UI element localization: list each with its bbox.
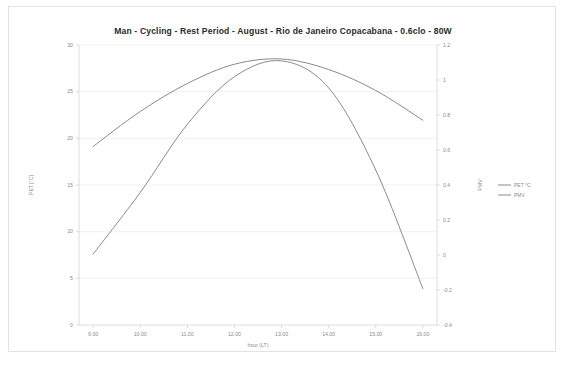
- chart-title: Man - Cycling - Rest Period - August - R…: [114, 26, 452, 36]
- axis-titles: PET [°C]PMVhour (LT): [28, 174, 483, 348]
- xtick-label: 15.00: [369, 331, 382, 337]
- ytick-label-left: 20: [67, 135, 73, 141]
- xtick-label: 9.00: [88, 331, 98, 337]
- ytick-label-right: 0.4: [443, 182, 450, 188]
- ytick-label-right: 0: [443, 252, 446, 258]
- ytick-label-right: 0.8: [443, 112, 450, 118]
- legend-label: PMV: [514, 192, 526, 198]
- ytick-label-right: -0.4: [443, 322, 452, 328]
- ytick-label-left: 15: [67, 182, 73, 188]
- xtick-label: 11.00: [181, 331, 194, 337]
- axis-title-x: hour (LT): [248, 342, 269, 348]
- ytick-label-right: 0.2: [443, 217, 450, 223]
- gridlines: [79, 45, 437, 278]
- figure-canvas: Man - Cycling - Rest Period - August - R…: [0, 0, 567, 378]
- ytick-label-right: 0.6: [443, 147, 450, 153]
- series-line-pet-c: [93, 61, 423, 289]
- xtick-label: 14.00: [322, 331, 335, 337]
- ytick-label-left: 10: [67, 228, 73, 234]
- ytick-label-left: 25: [67, 88, 73, 94]
- series-line-pmv: [93, 59, 423, 147]
- ytick-label-right: -0.2: [443, 287, 452, 293]
- xtick-label: 12.00: [228, 331, 241, 337]
- xtick-label: 10.00: [134, 331, 147, 337]
- axis-title-right: PMV: [477, 179, 483, 191]
- legend-label: PET °C: [514, 182, 531, 188]
- ytick-label-left: 30: [67, 42, 73, 48]
- ytick-label-right: 1: [443, 77, 446, 83]
- legend-item: PMV: [498, 192, 526, 198]
- axis-tick-labels: 051015202530-0.4-0.200.20.40.60.811.29.0…: [67, 42, 452, 337]
- axis-title-left: PET [°C]: [28, 174, 34, 195]
- data-series: [93, 59, 423, 289]
- ytick-label-right: 1.2: [443, 42, 450, 48]
- xtick-label: 13.00: [275, 331, 288, 337]
- ytick-label-left: 5: [70, 275, 73, 281]
- chart-legend: PET °CPMV: [498, 182, 531, 198]
- chart-plot: Man - Cycling - Rest Period - August - R…: [0, 0, 567, 378]
- xtick-label: 16.00: [416, 331, 429, 337]
- legend-item: PET °C: [498, 182, 531, 188]
- ytick-label-left: 0: [70, 322, 73, 328]
- axis-ticks: [76, 45, 440, 328]
